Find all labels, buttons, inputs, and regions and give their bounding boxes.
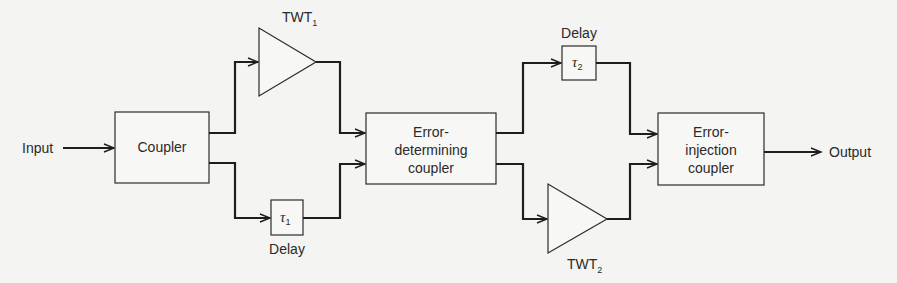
error-injection-line3: coupler — [688, 160, 734, 176]
delay1-block: τ1 Delay — [269, 200, 305, 257]
wire-error-determining-to-delay2 — [496, 63, 561, 133]
error-determining-line3: coupler — [408, 160, 454, 176]
amplifier-triangle-icon — [259, 28, 316, 96]
wire-error-determining-to-twt2 — [496, 164, 547, 219]
wire-twt1-to-error-determining — [316, 62, 365, 133]
delay1-caption: Delay — [269, 241, 305, 257]
wire-coupler-to-delay1 — [209, 163, 270, 218]
twt2-label: TWT2 — [567, 256, 602, 275]
delay2-caption: Delay — [561, 25, 597, 41]
coupler-block: Coupler — [115, 112, 209, 183]
twt1-amplifier: TWT1 — [259, 9, 317, 96]
input-label: Input — [22, 140, 53, 156]
error-determining-coupler-block: Error- determining coupler — [366, 113, 496, 184]
block-diagram: Input Coupler TWT1 τ1 Delay Error- deter… — [0, 0, 897, 283]
coupler-label: Coupler — [137, 139, 186, 155]
wire-coupler-to-twt1 — [209, 62, 258, 133]
error-injection-line2: injection — [685, 142, 736, 158]
twt2-amplifier: TWT2 — [548, 184, 607, 275]
delay2-block: τ2 Delay — [561, 25, 597, 80]
error-determining-line2: determining — [394, 142, 467, 158]
error-injection-line1: Error- — [693, 124, 729, 140]
amplifier-triangle-icon — [548, 184, 607, 253]
wire-twt2-to-error-injection — [607, 164, 657, 219]
wire-delay2-to-error-injection — [596, 63, 657, 134]
twt1-label: TWT1 — [282, 9, 317, 28]
output-label: Output — [829, 144, 871, 160]
wire-delay1-to-error-determining — [303, 164, 365, 218]
error-determining-line1: Error- — [413, 124, 449, 140]
error-injection-coupler-block: Error- injection coupler — [658, 113, 764, 185]
